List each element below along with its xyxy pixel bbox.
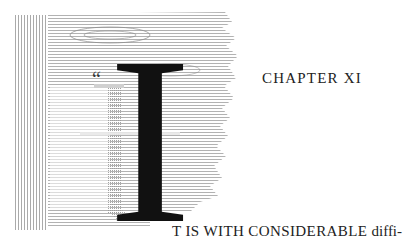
first-line-caps: T IS WITH CONSIDERABLE bbox=[172, 223, 371, 239]
first-line-text: T IS WITH CONSIDERABLE diffi- bbox=[172, 223, 402, 240]
first-line-rest: diffi- bbox=[371, 223, 402, 239]
opening-quote: “ bbox=[92, 68, 101, 91]
drop-cap-letter: I bbox=[108, 40, 192, 240]
book-page: CHAPTER XI “ I T IS WITH CONSIDERABLE di… bbox=[0, 0, 415, 240]
chapter-heading: CHAPTER XI bbox=[262, 70, 362, 87]
